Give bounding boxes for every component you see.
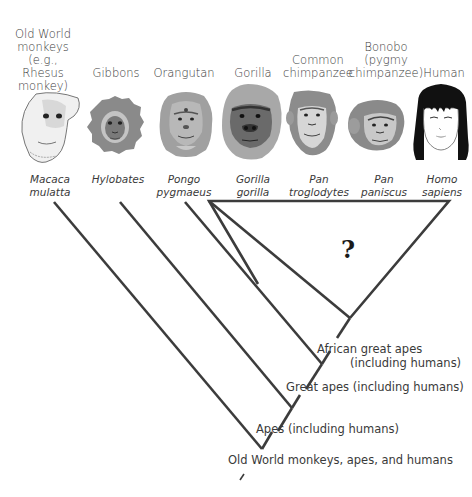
unresolved-question-mark: ? — [341, 235, 355, 264]
branch-hylobates — [120, 202, 292, 408]
node-label-apes: Apes (including humans) — [256, 422, 399, 436]
trunk-segment — [292, 395, 300, 408]
triangle-left-side — [209, 201, 350, 318]
phylogenetic-tree — [0, 0, 472, 497]
node-label-great-apes: Great apes (including humans) — [286, 380, 464, 394]
trunk-segment — [337, 318, 350, 338]
branch-pongo — [185, 202, 322, 364]
node-line: (including humans) — [317, 356, 461, 370]
node-line: Great apes (including humans) — [286, 380, 464, 394]
node-line: African great apes — [317, 342, 461, 356]
node-line: Old World monkeys, apes, and humans — [228, 453, 453, 467]
root-tick — [240, 474, 244, 480]
node-label-african-great-apes: African great apes (including humans) — [317, 342, 461, 370]
node-label-old-world: Old World monkeys, apes, and humans — [228, 453, 453, 467]
node-line: Apes (including humans) — [256, 422, 399, 436]
